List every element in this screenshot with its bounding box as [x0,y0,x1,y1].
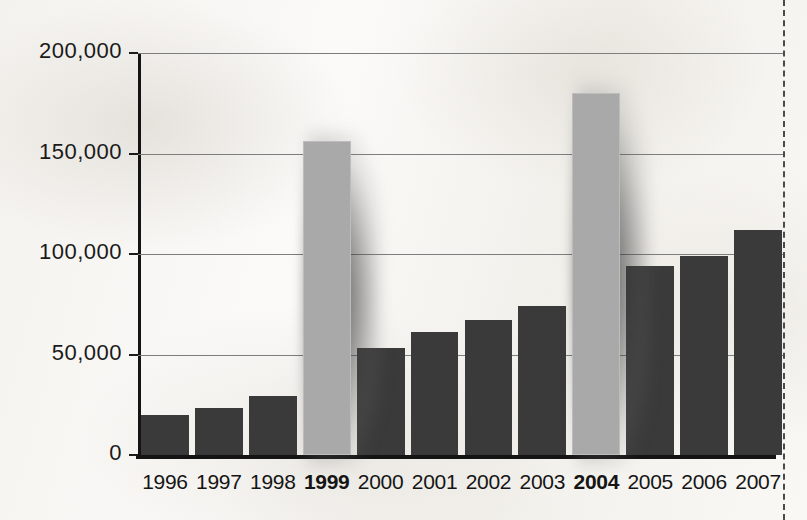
x-axis-tick-label-2004: 2004 [569,470,623,494]
x-axis-line [136,455,776,459]
bar-fill [734,230,782,455]
bar-fill [465,320,513,455]
bar-fill [195,408,243,455]
bar-2002 [465,320,513,455]
bar-fill [303,141,351,455]
y-axis-tick-label: 200,000 [0,38,122,64]
bar-fill [680,256,728,455]
x-axis-tick-labels: 1996199719981999200020012002200320042005… [138,470,785,504]
x-axis-tick-label-2007: 2007 [731,470,785,494]
x-axis-tick-label-2002: 2002 [462,470,516,494]
bar-2006 [680,256,728,455]
y-axis-tick-label: 50,000 [0,340,122,366]
x-axis-tick-label-1999: 1999 [300,470,354,494]
bar-1997 [195,408,243,455]
bar-2007 [734,230,782,455]
y-axis-tick-label: 100,000 [0,239,122,265]
bar-fill [141,415,189,455]
x-axis-tick-label-1996: 1996 [138,470,192,494]
bar-2004 [572,93,620,455]
bar-fill [411,332,459,455]
x-axis-tick-label-2006: 2006 [677,470,731,494]
bar-1996 [141,415,189,455]
bar-fill [572,93,620,455]
bar-fill [518,306,566,455]
y-axis-tick [129,454,138,456]
bars-group [138,53,785,455]
y-axis-tick-label: 0 [0,440,122,466]
y-axis-tick [129,354,138,356]
x-axis-tick-label-2003: 2003 [515,470,569,494]
x-axis-tick-label-2000: 2000 [354,470,408,494]
x-axis-tick-label-1997: 1997 [192,470,246,494]
x-axis-tick-label-2001: 2001 [408,470,462,494]
y-axis-tick [129,153,138,155]
crop-guide-dashed-line [783,0,785,520]
bar-1998 [249,396,297,455]
bar-1999 [303,141,351,455]
bar-fill [249,396,297,455]
bar-2001 [411,332,459,455]
bar-2003 [518,306,566,455]
x-axis-tick-label-1998: 1998 [246,470,300,494]
y-axis-tick [129,52,138,54]
y-axis-tick-label: 150,000 [0,139,122,165]
x-axis-tick-label-2005: 2005 [623,470,677,494]
chart-page: 200,000150,000100,00050,0000 19961997199… [0,0,807,520]
y-axis-tick [129,253,138,255]
